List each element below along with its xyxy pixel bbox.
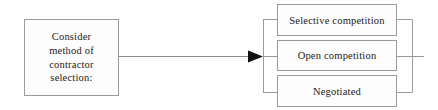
source-node-consider-method: Consider method of contractor selection:: [24, 19, 119, 96]
source-node-label: Consider method of contractor selection:: [49, 30, 94, 85]
option-node-label: Negotiated: [313, 86, 361, 97]
option-node-negotiated: Negotiated: [277, 75, 397, 107]
flowchart-diagram: Consider method of contractor selection:…: [0, 0, 438, 110]
option-node-label: Open competition: [298, 50, 377, 61]
arrowhead-icon: [248, 51, 263, 63]
option-node-label: Selective competition: [289, 15, 384, 26]
option-node-selective-competition: Selective competition: [277, 4, 397, 36]
option-node-open-competition: Open competition: [277, 40, 397, 71]
